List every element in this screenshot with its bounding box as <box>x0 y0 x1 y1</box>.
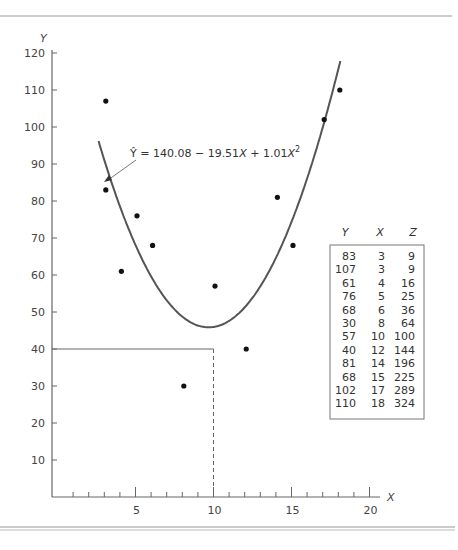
data-point <box>150 243 155 248</box>
table-cell: 4 <box>378 277 385 290</box>
y-tick-label: 10 <box>31 454 45 467</box>
y-tick-label: 20 <box>31 417 45 430</box>
y-tick-label: 60 <box>31 269 45 282</box>
data-points <box>103 87 342 388</box>
table-cell: 110 <box>335 397 356 410</box>
y-tick-label: 120 <box>24 47 45 60</box>
table-header: Y <box>342 226 350 239</box>
y-tick-label: 50 <box>31 306 45 319</box>
table-cell: 16 <box>401 277 415 290</box>
data-point <box>275 195 280 200</box>
data-point <box>134 213 139 218</box>
table-cell: 8 <box>378 317 385 330</box>
table-cell: 144 <box>394 344 415 357</box>
table-cell: 3 <box>378 250 385 263</box>
equation-arrow <box>108 160 136 180</box>
table-cell: 102 <box>335 384 356 397</box>
equation-annotation: Ŷ = 140.08 − 19.51X + 1.01X2 <box>104 145 300 182</box>
table-cell: 76 <box>342 290 356 303</box>
data-point <box>290 243 295 248</box>
data-point <box>244 346 249 351</box>
table-header: Z <box>408 226 417 239</box>
table-cell: 61 <box>342 277 356 290</box>
y-tick-label: 80 <box>31 195 45 208</box>
data-point <box>181 383 186 388</box>
table-cell: 107 <box>335 263 356 276</box>
y-axis-title: Y <box>40 32 48 45</box>
table-cell: 14 <box>371 357 385 370</box>
data-point <box>103 187 108 192</box>
table-cell: 225 <box>394 371 415 384</box>
table-cell: 324 <box>394 397 415 410</box>
table-cell: 10 <box>371 330 385 343</box>
data-point <box>103 99 108 104</box>
table-cell: 30 <box>342 317 356 330</box>
table-cell: 3 <box>378 263 385 276</box>
quadratic-curve-line <box>99 61 341 327</box>
x-axis-title: X <box>386 491 395 504</box>
table-cell: 17 <box>371 384 385 397</box>
data-point <box>322 117 327 122</box>
y-tick-label: 30 <box>31 380 45 393</box>
table-cell: 68 <box>342 304 356 317</box>
y-tick-label: 100 <box>24 121 45 134</box>
quadratic-regression-chart: 1020304050607080901001101205101520 Y X Ŷ… <box>0 0 458 550</box>
data-point <box>337 87 342 92</box>
table-cell: 289 <box>394 384 415 397</box>
data-table: YXZ8339107396141676525686363086457101004… <box>330 226 424 419</box>
table-cell: 9 <box>408 263 415 276</box>
table-cell: 25 <box>401 290 415 303</box>
y-tick-label: 70 <box>31 232 45 245</box>
y-tick-label: 90 <box>31 158 45 171</box>
table-cell: 36 <box>401 304 415 317</box>
x-tick-label: 20 <box>364 504 378 517</box>
table-cell: 40 <box>342 344 356 357</box>
table-cell: 83 <box>342 250 356 263</box>
table-cell: 9 <box>408 250 415 263</box>
table-cell: 81 <box>342 357 356 370</box>
table-cell: 12 <box>371 344 385 357</box>
table-cell: 5 <box>378 290 385 303</box>
table-cell: 100 <box>394 330 415 343</box>
table-cell: 196 <box>394 357 415 370</box>
y-tick-label: 110 <box>24 84 45 97</box>
table-cell: 64 <box>401 317 415 330</box>
x-tick-label: 10 <box>208 504 222 517</box>
table-cell: 15 <box>371 371 385 384</box>
table-header: X <box>375 226 384 239</box>
equation-label: Ŷ = 140.08 − 19.51X + 1.01X2 <box>129 145 300 160</box>
table-cell: 6 <box>378 304 385 317</box>
fitted-curve <box>99 61 341 327</box>
data-point <box>119 269 124 274</box>
table-cell: 18 <box>371 397 385 410</box>
guide-lines <box>52 349 214 497</box>
x-tick-label: 5 <box>133 504 140 517</box>
table-cell: 57 <box>342 330 356 343</box>
data-point <box>212 284 217 289</box>
x-tick-label: 15 <box>286 504 300 517</box>
table-cell: 68 <box>342 371 356 384</box>
y-tick-label: 40 <box>31 343 45 356</box>
